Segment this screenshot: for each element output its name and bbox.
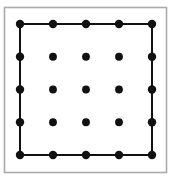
lattice-diagram	[0, 0, 171, 180]
graph-node-n-4-3	[115, 151, 123, 159]
graph-node-n-3-3	[115, 118, 123, 126]
graph-node-n-4-1	[49, 151, 57, 159]
graph-node-n-2-0	[16, 85, 24, 93]
graph-node-n-1-3	[115, 53, 123, 61]
graph-node-n-4-0	[16, 151, 24, 159]
graph-node-n-0-0	[16, 20, 24, 28]
graph-node-n-4-2	[82, 151, 90, 159]
graph-node-n-3-1	[49, 118, 57, 126]
graph-node-n-0-4	[148, 20, 156, 28]
graph-node-n-1-1	[49, 53, 57, 61]
graph-node-n-0-1	[49, 20, 57, 28]
graph-node-n-0-3	[115, 20, 123, 28]
graph-node-n-1-2	[82, 53, 90, 61]
graph-node-n-2-1	[49, 86, 57, 94]
graph-node-n-2-2	[82, 86, 90, 94]
figure-root	[0, 0, 171, 180]
graph-node-n-1-4	[148, 53, 156, 61]
graph-node-n-2-3	[115, 86, 123, 94]
graph-node-n-3-4	[148, 118, 156, 126]
graph-node-n-0-2	[82, 20, 90, 28]
graph-node-n-1-0	[16, 53, 24, 61]
graph-node-n-4-4	[148, 151, 156, 159]
graph-node-n-2-4	[148, 85, 156, 93]
graph-node-n-3-0	[16, 118, 24, 126]
graph-node-n-3-2	[82, 118, 90, 126]
